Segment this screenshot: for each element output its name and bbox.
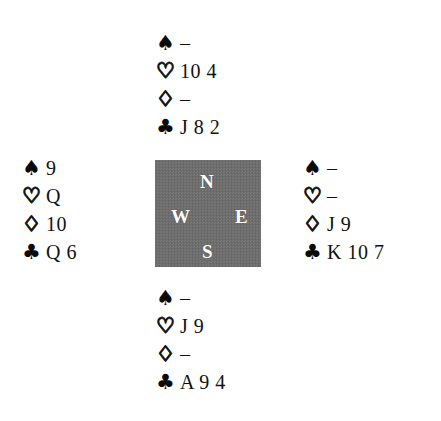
hand-east-diamonds: ♢ J 9 — [303, 210, 438, 238]
heart-icon: ♡ — [303, 186, 325, 207]
spade-icon: ♠ — [303, 158, 325, 179]
hand-east: ♠ – ♡ – ♢ J 9 ♣ K 10 7 — [303, 154, 438, 266]
hand-west-diamonds: ♢ 10 — [22, 210, 142, 238]
hand-west-spade-cards: 9 — [44, 158, 57, 178]
hand-south-spades: ♠ – — [156, 284, 286, 312]
hand-east-clubs: ♣ K 10 7 — [303, 238, 438, 266]
compass-label-north: N — [200, 172, 214, 191]
hand-east-club-cards: K 10 7 — [325, 242, 384, 262]
bridge-hand-diagram: ♠ – ♡ 10 4 ♢ – ♣ J 8 2 ♠ 9 ♡ Q ♢ 10 — [0, 0, 441, 421]
hand-east-heart-cards: – — [325, 186, 338, 206]
spade-icon: ♠ — [156, 33, 178, 54]
diamond-icon: ♢ — [156, 89, 178, 110]
compass-label-west: W — [171, 207, 190, 226]
compass-label-south: S — [202, 242, 213, 261]
hand-west-hearts: ♡ Q — [22, 182, 142, 210]
club-icon: ♣ — [156, 117, 178, 138]
hand-west: ♠ 9 ♡ Q ♢ 10 ♣ Q 6 — [22, 154, 142, 266]
hand-east-diamond-cards: J 9 — [325, 214, 351, 234]
spade-icon: ♠ — [22, 158, 44, 179]
hand-west-clubs: ♣ Q 6 — [22, 238, 142, 266]
compass-box: N W E S — [155, 160, 261, 267]
hand-north-diamond-cards: – — [178, 89, 191, 109]
hand-west-diamond-cards: 10 — [44, 214, 67, 234]
hand-north-clubs: ♣ J 8 2 — [156, 113, 286, 141]
heart-icon: ♡ — [156, 61, 178, 82]
hand-north: ♠ – ♡ 10 4 ♢ – ♣ J 8 2 — [156, 29, 286, 141]
hand-north-heart-cards: 10 4 — [178, 61, 217, 81]
heart-icon: ♡ — [22, 186, 44, 207]
club-icon: ♣ — [303, 242, 325, 263]
spade-icon: ♠ — [156, 288, 178, 309]
hand-south-diamond-cards: – — [178, 344, 191, 364]
club-icon: ♣ — [22, 242, 44, 263]
club-icon: ♣ — [156, 372, 178, 393]
diamond-icon: ♢ — [303, 214, 325, 235]
hand-north-hearts: ♡ 10 4 — [156, 57, 286, 85]
hand-east-spades: ♠ – — [303, 154, 438, 182]
compass-label-east: E — [235, 207, 248, 226]
hand-east-hearts: ♡ – — [303, 182, 438, 210]
hand-north-spade-cards: – — [178, 33, 191, 53]
diamond-icon: ♢ — [156, 344, 178, 365]
hand-east-spade-cards: – — [325, 158, 338, 178]
hand-west-heart-cards: Q — [44, 186, 61, 206]
hand-west-club-cards: Q 6 — [44, 242, 77, 262]
diamond-icon: ♢ — [22, 214, 44, 235]
hand-south-clubs: ♣ A 9 4 — [156, 368, 286, 396]
hand-south: ♠ – ♡ J 9 ♢ – ♣ A 9 4 — [156, 284, 286, 396]
hand-north-diamonds: ♢ – — [156, 85, 286, 113]
hand-south-club-cards: A 9 4 — [178, 372, 226, 392]
hand-south-heart-cards: J 9 — [178, 316, 204, 336]
hand-south-spade-cards: – — [178, 288, 191, 308]
hand-south-diamonds: ♢ – — [156, 340, 286, 368]
hand-west-spades: ♠ 9 — [22, 154, 142, 182]
hand-north-spades: ♠ – — [156, 29, 286, 57]
hand-south-hearts: ♡ J 9 — [156, 312, 286, 340]
heart-icon: ♡ — [156, 316, 178, 337]
hand-north-club-cards: J 8 2 — [178, 117, 220, 137]
